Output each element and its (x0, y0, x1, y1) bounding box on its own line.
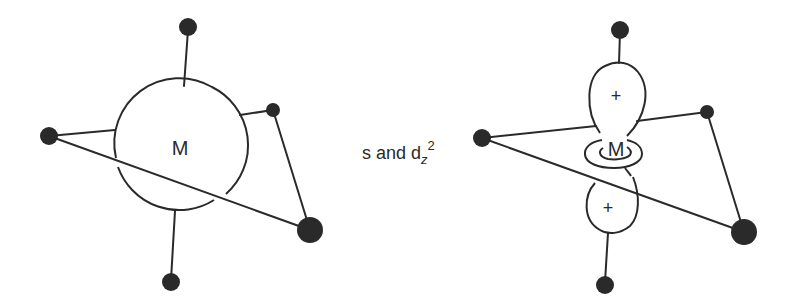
caption-superscript: 2 (428, 138, 435, 153)
ligand-atom-bottom (162, 273, 180, 291)
ligand-atom-left (40, 127, 58, 145)
ligand-atom-bottom (596, 276, 614, 294)
dz2-lower-lobe-neck (625, 168, 631, 176)
metal-label: M (172, 137, 189, 159)
bond-right (637, 112, 707, 121)
right-panel: M + + (473, 21, 757, 294)
lower-lobe-sign: + (603, 198, 614, 218)
ligand-atom-top (179, 18, 197, 36)
caption-subscript: z (420, 152, 428, 167)
bond-right-edge (707, 112, 744, 232)
bond-right-edge (273, 110, 310, 230)
ligand-atom-right (700, 105, 714, 119)
bond-bottom (605, 233, 608, 282)
metal-label: M (608, 138, 625, 160)
ligand-atom-right (266, 103, 280, 117)
caption-prefix: s and d (362, 143, 421, 163)
ligand-atom-left (473, 129, 491, 147)
orbital-diagram: M s and dz2 M + + (0, 0, 799, 307)
ligand-atom-large (731, 219, 757, 245)
s-orbital-lower-arc (118, 167, 214, 210)
caption: s and dz2 (362, 138, 435, 167)
bond-left (49, 130, 115, 136)
left-panel: M (40, 18, 323, 291)
ligand-atom-large (297, 217, 323, 243)
bond-left (482, 126, 596, 138)
bond-bottom (171, 211, 175, 280)
upper-lobe-sign: + (611, 86, 622, 106)
ligand-atom-top (611, 21, 629, 39)
